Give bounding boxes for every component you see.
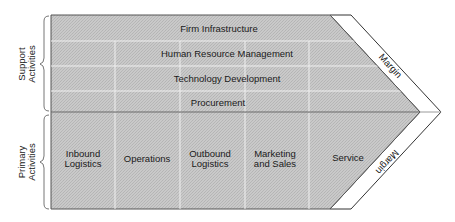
value-chain-diagram: Firm Infrastructure Human Resource Manag… bbox=[0, 0, 455, 222]
support-brace-icon bbox=[40, 16, 49, 111]
primary-activity-outbound-logistics-line2: Logistics bbox=[192, 158, 229, 169]
support-activity-firm-infrastructure: Firm Infrastructure bbox=[180, 23, 258, 34]
primary-brace-icon bbox=[40, 115, 49, 209]
support-activity-procurement: Procurement bbox=[191, 97, 246, 108]
primary-activity-service: Service bbox=[332, 152, 364, 163]
primary-activity-marketing-and-sales-line2: and Sales bbox=[254, 158, 297, 169]
primary-activities-label-line2: Activities bbox=[26, 143, 37, 181]
support-activity-human-resource-management: Human Resource Management bbox=[161, 48, 293, 59]
support-activities-label-line2: Activities bbox=[26, 45, 37, 83]
primary-activity-inbound-logistics-line2: Logistics bbox=[65, 158, 102, 169]
primary-activity-operations: Operations bbox=[124, 153, 171, 164]
support-activity-technology-development: Technology Development bbox=[174, 73, 281, 84]
